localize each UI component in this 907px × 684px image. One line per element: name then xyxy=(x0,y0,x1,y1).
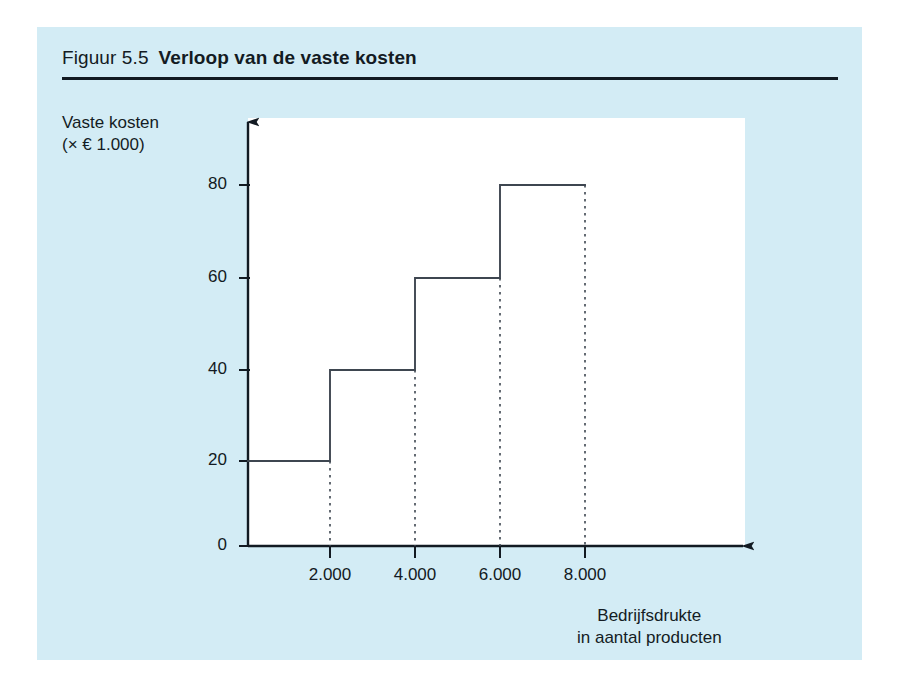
x-axis-title: Bedrijfsdrukte in aantal producten xyxy=(577,605,722,649)
y-tick-label-40: 40 xyxy=(187,359,227,379)
step-droplines xyxy=(330,185,585,546)
x-tick-label-6000: 6.000 xyxy=(465,565,535,585)
step-cost-line xyxy=(248,185,585,461)
x-tick-label-8000: 8.000 xyxy=(550,565,620,585)
y-tick-label-60: 60 xyxy=(187,267,227,287)
y-tick-label-20: 20 xyxy=(187,450,227,470)
y-axis-title: Vaste kosten (× € 1.000) xyxy=(62,112,159,156)
x-axis-ticks xyxy=(330,546,585,558)
chart-area: Vaste kosten (× € 1.000) Bedrijfsdrukte … xyxy=(37,27,862,660)
y-axis-title-line1: Vaste kosten xyxy=(62,112,159,134)
x-axis-title-line1: Bedrijfsdrukte xyxy=(577,605,722,627)
y-tick-label-0: 0 xyxy=(187,535,227,555)
figure-panel: Figuur 5.5Verloop van de vaste kosten xyxy=(37,27,862,660)
y-tick-label-80: 80 xyxy=(187,174,227,194)
x-axis-title-line2: in aantal producten xyxy=(577,627,722,649)
x-tick-label-2000: 2.000 xyxy=(295,565,365,585)
x-tick-label-4000: 4.000 xyxy=(380,565,450,585)
y-axis-title-line2: (× € 1.000) xyxy=(62,134,159,156)
